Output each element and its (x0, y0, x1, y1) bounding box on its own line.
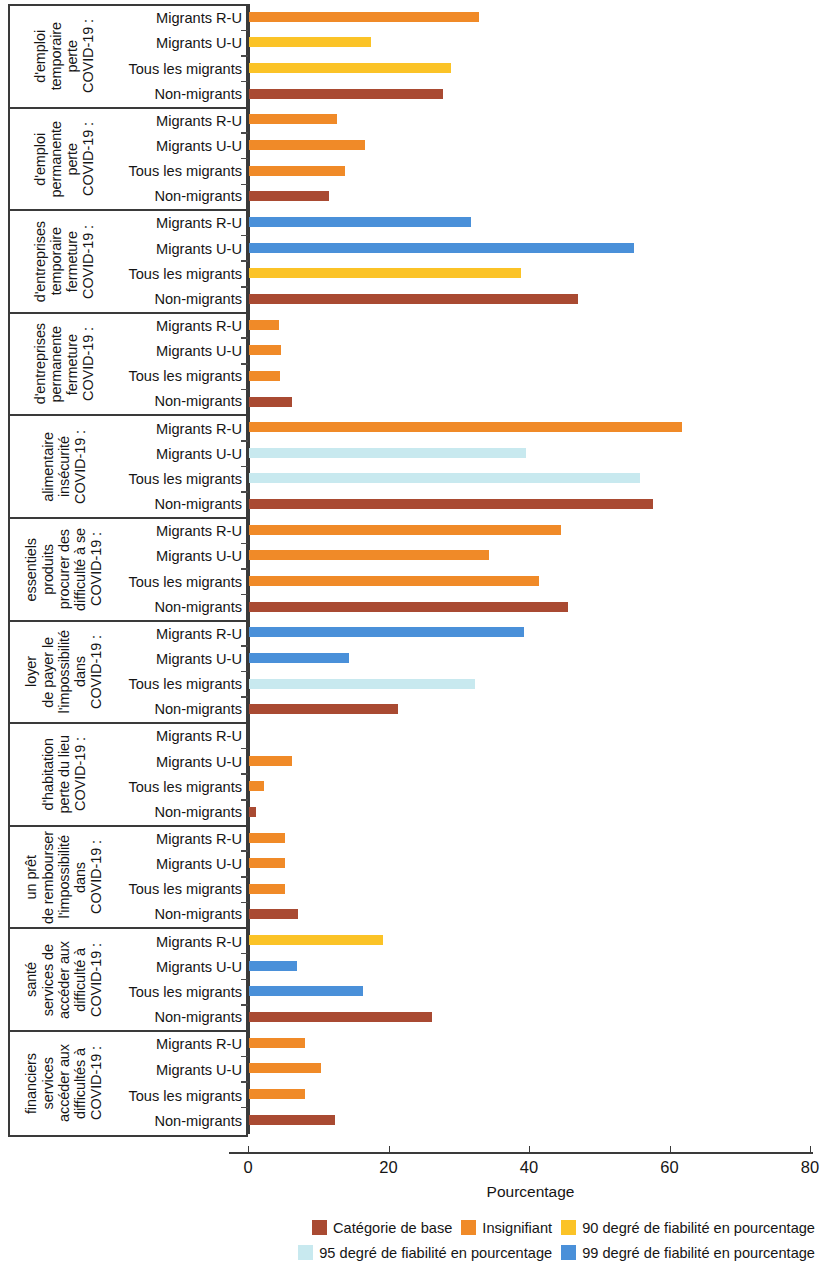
bar[interactable] (249, 243, 634, 253)
bar[interactable] (249, 704, 398, 714)
legend-row-2: 95 degré de fiabilité en pourcentage99 d… (0, 1240, 821, 1265)
bar[interactable] (249, 217, 471, 227)
legend-label: Insignifiant (482, 1220, 552, 1236)
legend-swatch-insignifiant (461, 1220, 476, 1235)
bar-slot (248, 722, 813, 748)
bar-slot (248, 414, 813, 440)
bar[interactable] (249, 89, 443, 99)
bar[interactable] (249, 627, 524, 637)
y-tick (241, 671, 248, 673)
category-label: Migrants U-U (156, 339, 242, 364)
category-labels: Migrants R-UMigrants U-UTous les migrant… (118, 416, 246, 517)
y-tick (241, 1056, 248, 1058)
bar-group (248, 517, 813, 620)
category-labels: Migrants R-UMigrants U-UTous les migrant… (118, 622, 246, 723)
category-label: Migrants U-U (156, 749, 242, 774)
bar-slot (248, 491, 813, 517)
bar-slot (248, 363, 813, 389)
bar[interactable] (249, 140, 365, 150)
category-label: Tous les migrants (128, 159, 242, 184)
bar[interactable] (249, 12, 479, 22)
group-title: COVID-19 :difficulté à seprocurer despro… (10, 519, 118, 620)
category-labels: Migrants R-UMigrants U-UTous les migrant… (118, 827, 246, 928)
bar[interactable] (249, 191, 329, 201)
bar[interactable] (249, 525, 561, 535)
y-tick (241, 748, 248, 750)
legend-item[interactable]: 90 degré de fiabilité en pourcentage (561, 1220, 815, 1236)
bar[interactable] (249, 833, 285, 843)
category-label: Tous les migrants (128, 364, 242, 389)
bar[interactable] (249, 781, 264, 791)
y-tick (241, 30, 248, 32)
bar[interactable] (249, 961, 297, 971)
bar[interactable] (249, 807, 256, 817)
category-label: Migrants U-U (156, 31, 242, 56)
bar[interactable] (249, 1089, 305, 1099)
bar-group (248, 1030, 813, 1133)
bar-slot (248, 55, 813, 81)
bar[interactable] (249, 550, 489, 560)
x-tick (810, 1146, 811, 1152)
bar[interactable] (249, 576, 539, 586)
bar[interactable] (249, 37, 371, 47)
bar[interactable] (249, 63, 451, 73)
x-tick (248, 1146, 249, 1152)
bar[interactable] (249, 448, 526, 458)
bar[interactable] (249, 397, 292, 407)
bar[interactable] (249, 422, 682, 432)
category-label: Tous les migrants (128, 980, 242, 1005)
category-label: Migrants R-U (156, 622, 242, 647)
bar[interactable] (249, 473, 640, 483)
legend-item[interactable]: Catégorie de base (312, 1220, 452, 1236)
group-row: COVID-19 :pertepermanented'emploiMigrant… (10, 109, 246, 212)
bar-group (248, 414, 813, 517)
y-tick (241, 337, 248, 339)
group-title-line: produits (40, 544, 56, 595)
group-title-line: COVID-19 : (88, 1046, 104, 1120)
bar[interactable] (249, 986, 363, 996)
bar[interactable] (249, 345, 281, 355)
bar[interactable] (249, 653, 349, 663)
bar[interactable] (249, 499, 653, 509)
group-title-line: COVID-19 : (88, 532, 104, 606)
bar[interactable] (249, 858, 285, 868)
bar[interactable] (249, 1038, 305, 1048)
category-label: Non-migrants (154, 800, 242, 825)
y-tick (241, 543, 248, 545)
bar-slot (248, 1004, 813, 1030)
legend-item[interactable]: Insignifiant (461, 1220, 552, 1236)
category-label: Migrants R-U (156, 929, 242, 954)
x-tick-label: 60 (660, 1158, 678, 1177)
legend-item[interactable]: 95 degré de fiabilité en pourcentage (298, 1245, 552, 1261)
bar[interactable] (249, 935, 383, 945)
bar[interactable] (249, 268, 521, 278)
bar[interactable] (249, 909, 298, 919)
y-tick (241, 389, 248, 391)
bar[interactable] (249, 1012, 432, 1022)
bar-slot (248, 645, 813, 671)
y-tick (241, 363, 248, 365)
bar[interactable] (249, 320, 279, 330)
x-tick-label: 0 (243, 1158, 252, 1177)
bar[interactable] (249, 756, 292, 766)
bar[interactable] (249, 114, 337, 124)
category-label: Migrants R-U (156, 724, 242, 749)
y-tick (241, 979, 248, 981)
bar[interactable] (249, 884, 285, 894)
legend-item[interactable]: 99 degré de fiabilité en pourcentage (561, 1245, 815, 1261)
bar[interactable] (249, 294, 578, 304)
bar[interactable] (249, 371, 280, 381)
bar-group (248, 107, 813, 210)
bar[interactable] (249, 1063, 321, 1073)
category-label: Tous les migrants (128, 261, 242, 286)
group-title-line: santé (23, 962, 39, 997)
group-title-line: financiers (23, 1053, 39, 1114)
bar[interactable] (249, 679, 475, 689)
category-label: Tous les migrants (128, 672, 242, 697)
group-title-line: de rembourser (40, 831, 56, 924)
group-title: COVID-19 :fermeturepermanented'entrepris… (10, 314, 118, 415)
bar[interactable] (249, 602, 568, 612)
bar[interactable] (249, 166, 345, 176)
category-label: Non-migrants (154, 697, 242, 722)
bar[interactable] (249, 1115, 335, 1125)
